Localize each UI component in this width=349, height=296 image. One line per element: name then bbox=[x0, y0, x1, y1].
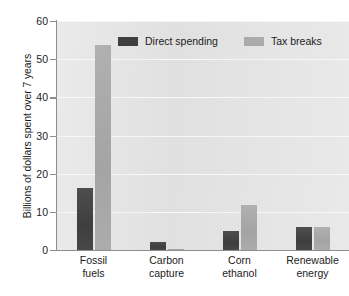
bar-tax-breaks bbox=[95, 45, 111, 250]
y-axis-tick-label: 50 bbox=[2, 53, 48, 65]
legend-item-direct-spending: Direct spending bbox=[118, 35, 218, 47]
chart-legend: Direct spending Tax breaks bbox=[118, 35, 322, 47]
y-axis-tick-label: 10 bbox=[2, 206, 48, 218]
legend-item-tax-breaks: Tax breaks bbox=[244, 35, 322, 47]
y-axis-tick-label: 60 bbox=[2, 15, 48, 27]
y-axis-tick bbox=[50, 174, 56, 175]
legend-label-direct-spending: Direct spending bbox=[145, 35, 218, 47]
x-axis-label-line: energy bbox=[268, 267, 349, 280]
bar-direct-spending bbox=[150, 242, 166, 250]
bar-tax-breaks bbox=[314, 227, 330, 250]
y-axis-tick bbox=[50, 250, 56, 251]
x-axis-line bbox=[50, 250, 349, 251]
plot-area bbox=[57, 21, 349, 250]
legend-swatch-icon-direct-spending bbox=[118, 37, 138, 46]
y-axis-tick bbox=[50, 97, 56, 98]
y-axis-tick-label: 20 bbox=[2, 168, 48, 180]
legend-swatch-icon-tax-breaks bbox=[244, 37, 264, 46]
y-axis-tick bbox=[50, 21, 56, 22]
y-axis-tick bbox=[50, 136, 56, 137]
bar-chart: Billions of dollars spent over 7 years 0… bbox=[0, 0, 349, 296]
y-axis-tick bbox=[50, 59, 56, 60]
y-axis-tick-label: 0 bbox=[2, 244, 48, 256]
y-axis-tick-label: 30 bbox=[2, 130, 48, 142]
legend-label-tax-breaks: Tax breaks bbox=[271, 35, 322, 47]
x-axis-label-line: Renewable bbox=[268, 254, 349, 267]
y-axis-line bbox=[56, 20, 57, 251]
x-axis-label: Renewableenergy bbox=[268, 254, 349, 279]
bar-direct-spending bbox=[296, 227, 312, 250]
gridline bbox=[57, 21, 349, 22]
bar-tax-breaks bbox=[241, 205, 257, 250]
bar-direct-spending bbox=[223, 231, 239, 250]
y-axis-tick bbox=[50, 212, 56, 213]
bar-direct-spending bbox=[77, 188, 93, 250]
y-axis-tick-label: 40 bbox=[2, 91, 48, 103]
